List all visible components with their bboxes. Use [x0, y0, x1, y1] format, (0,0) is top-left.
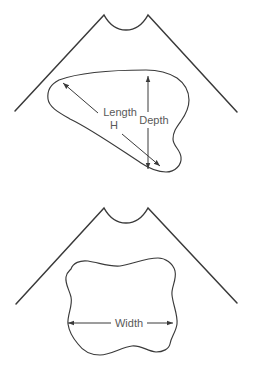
lower-roof-outline: [16, 208, 237, 304]
length-arrow-lower-segment: [122, 134, 160, 166]
width-label: Width: [115, 317, 143, 329]
lower-body-outline: [66, 258, 177, 355]
measurement-diagrams: Length H Depth Width: [0, 0, 254, 375]
depth-label: Depth: [139, 114, 168, 126]
length-arrow-upper-segment: [63, 83, 98, 113]
length-label: Length: [103, 106, 137, 118]
figure-canvas: Length H Depth Width: [0, 0, 254, 375]
upper-diagram: Length H Depth: [15, 15, 237, 172]
lower-diagram: Width: [16, 208, 237, 355]
h-label: H: [110, 119, 118, 131]
